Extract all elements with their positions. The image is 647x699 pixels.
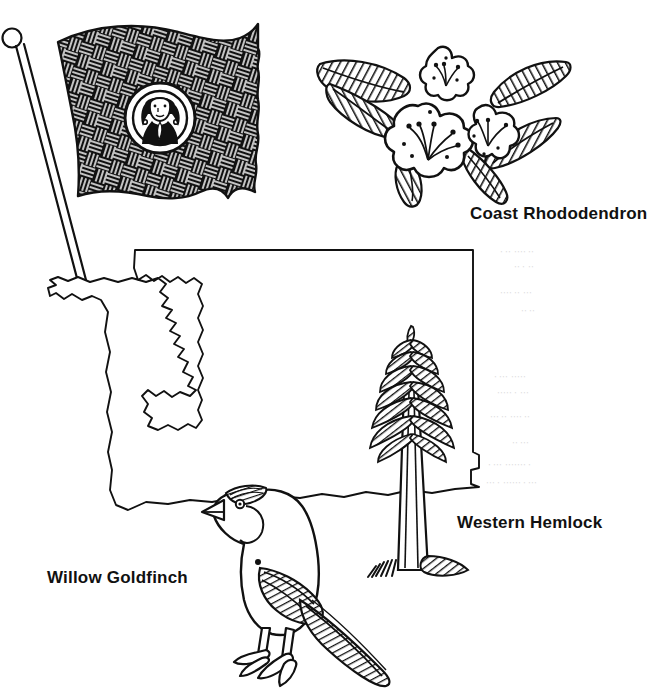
goldfinch-feet [234, 650, 296, 686]
goldfinch-beak [202, 500, 224, 520]
label-willow-goldfinch: Willow Goldfinch [47, 569, 188, 586]
coast-rhododendron-illustration [317, 47, 570, 207]
state-flag-illustration [3, 24, 260, 286]
rhododendron-blossom [420, 47, 474, 101]
goldfinch-tail [300, 600, 389, 686]
goldfinch-shoulder-mark [255, 559, 261, 565]
rhododendron-blossom [385, 104, 473, 177]
label-coast-rhododendron: Coast Rhododendron [470, 205, 647, 222]
label-western-hemlock: Western Hemlock [457, 514, 602, 531]
flag-seal [125, 83, 195, 153]
george-washington-portrait [141, 97, 179, 144]
rhododendron-leaf [491, 61, 571, 107]
willow-goldfinch-illustration [202, 486, 389, 687]
goldfinch-eye [236, 500, 244, 508]
